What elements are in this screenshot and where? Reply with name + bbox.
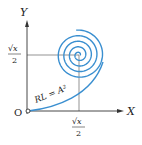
x-axis-arrow-icon — [117, 109, 124, 113]
y-axis-label: Y — [20, 6, 29, 19]
y-tick-numerator: √x — [8, 44, 18, 53]
origin-marker — [26, 109, 30, 113]
clothoid-diagram: Y X O √x 2 √x 2 RL = A² — [0, 0, 142, 145]
origin-label: O — [14, 107, 22, 118]
x-tick-denominator: 2 — [76, 129, 81, 138]
clothoid-spiral — [58, 30, 102, 77]
y-axis-arrow-icon — [25, 20, 29, 27]
x-tick-numerator: √x — [72, 117, 82, 126]
x-axis-label: X — [126, 105, 136, 118]
y-tick-denominator: 2 — [12, 56, 17, 65]
